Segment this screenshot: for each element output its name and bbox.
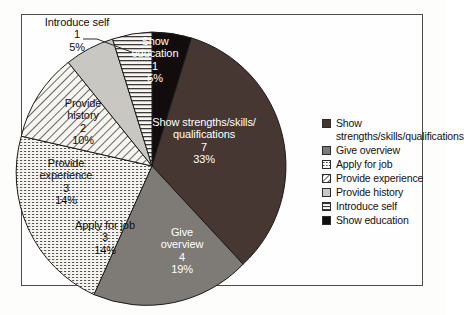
slice-label-show-education-line-0: Show bbox=[113, 35, 197, 47]
legend-swatch-show-education-icon bbox=[322, 216, 331, 225]
slice-label-give-overview-line-0: Give bbox=[143, 226, 221, 238]
legend-label-provide-experience: Provide experience bbox=[336, 172, 442, 185]
slice-label-provide-experience-percent: 14% bbox=[23, 194, 109, 206]
slice-label-show-strengths: Show strengths/skills/ qualifications 7 … bbox=[131, 116, 277, 165]
legend-swatch-introduce-self-icon bbox=[322, 202, 331, 211]
slice-label-show-strengths-line-1: qualifications bbox=[131, 128, 277, 140]
legend-label-show-strengths: Show strengths/skills/qualifications bbox=[336, 117, 464, 144]
slice-label-provide-history-line-0: Provide bbox=[48, 97, 118, 109]
legend-item-introduce-self[interactable]: Introduce self bbox=[322, 200, 442, 213]
slice-label-show-strengths-line-0: Show strengths/skills/ bbox=[131, 116, 277, 128]
slice-label-provide-experience-value: 3 bbox=[23, 182, 109, 194]
slice-label-show-education: Show education 1 5% bbox=[113, 35, 197, 84]
slice-label-give-overview-line-1: overview bbox=[143, 238, 221, 250]
legend-label-introduce-self: Introduce self bbox=[336, 200, 442, 213]
slice-label-provide-experience-line-0: Provide bbox=[23, 157, 109, 169]
legend-label-provide-history: Provide history bbox=[336, 186, 442, 199]
slice-label-show-education-percent: 5% bbox=[113, 72, 197, 84]
legend-label-show-education: Show education bbox=[336, 214, 442, 227]
slice-label-provide-history-line-1: history bbox=[48, 109, 118, 121]
slice-label-provide-experience-line-1: experience bbox=[23, 169, 109, 181]
legend-swatch-apply-for-job-icon bbox=[322, 160, 331, 169]
slice-label-apply-for-job: Apply for job 3 14% bbox=[59, 219, 151, 256]
slice-label-provide-history-value: 2 bbox=[48, 122, 118, 134]
legend-item-apply-for-job[interactable]: Apply for job bbox=[322, 158, 442, 171]
legend-swatch-give-overview-icon bbox=[322, 146, 331, 155]
legend-item-provide-experience[interactable]: Provide experience bbox=[322, 172, 442, 185]
chart-legend: Show strengths/skills/qualifications Giv… bbox=[322, 117, 442, 228]
slice-label-apply-for-job-line-0: Apply for job bbox=[59, 219, 151, 231]
slice-label-introduce-self-line-0: Introduce self bbox=[18, 16, 136, 28]
slice-label-show-education-line-1: education bbox=[113, 47, 197, 59]
slice-label-apply-for-job-percent: 14% bbox=[59, 244, 151, 256]
slice-label-give-overview: Give overview 4 19% bbox=[143, 226, 221, 275]
slice-label-give-overview-value: 4 bbox=[143, 251, 221, 263]
legend-item-show-education[interactable]: Show education bbox=[322, 214, 442, 227]
slice-label-apply-for-job-value: 3 bbox=[59, 231, 151, 243]
slice-label-provide-history: Provide history 2 10% bbox=[48, 97, 118, 146]
legend-item-show-strengths[interactable]: Show strengths/skills/qualifications bbox=[322, 117, 442, 144]
legend-label-give-overview: Give overview bbox=[336, 144, 442, 157]
slice-label-provide-history-percent: 10% bbox=[48, 134, 118, 146]
legend-swatch-provide-experience-icon bbox=[322, 174, 331, 183]
legend-swatch-show-strengths-icon bbox=[322, 119, 331, 128]
slice-label-show-strengths-value: 7 bbox=[131, 141, 277, 153]
legend-swatch-provide-history-icon bbox=[322, 188, 331, 197]
slice-label-show-education-value: 1 bbox=[113, 60, 197, 72]
legend-label-apply-for-job: Apply for job bbox=[336, 158, 442, 171]
legend-item-give-overview[interactable]: Give overview bbox=[322, 144, 442, 157]
slice-label-give-overview-percent: 19% bbox=[143, 263, 221, 275]
slice-label-show-strengths-percent: 33% bbox=[131, 153, 277, 165]
slice-label-provide-experience: Provide experience 3 14% bbox=[23, 157, 109, 206]
legend-item-provide-history[interactable]: Provide history bbox=[322, 186, 442, 199]
